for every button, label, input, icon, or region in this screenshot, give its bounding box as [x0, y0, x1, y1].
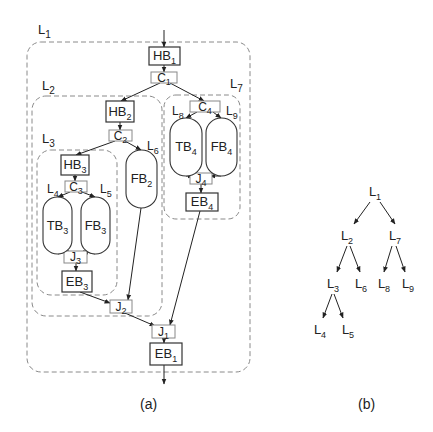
- branch-tb4: TB4L8: [170, 104, 202, 176]
- tree-edge-l3-to-l5: [334, 294, 343, 318]
- panel-a-control-flow-graph: L1L2L3L7 HB1HB2HB3EB3EB4EB1C1C2C3C4J3J4J…: [27, 22, 250, 412]
- tree-node-l2: L2: [341, 228, 353, 246]
- block-eb1: EB1: [150, 343, 182, 365]
- panel-b-loop-tree: L1L2L7L3L6L8L9L4L5 (b): [314, 184, 414, 412]
- tree-edge-l2-to-l3: [337, 246, 347, 272]
- edge-j2-to-j1: [125, 313, 155, 326]
- block-eb3: EB3: [62, 271, 92, 292]
- edge-eb3-to-j2: [80, 292, 110, 303]
- block-hb3: HB3: [61, 155, 89, 175]
- loop-tree-edges: [323, 202, 405, 318]
- block-eb4: EB4: [186, 193, 218, 212]
- loop-label-l7: L7: [230, 76, 243, 94]
- loop-label-l8: L8: [172, 104, 184, 121]
- join-j3: J3: [64, 250, 87, 266]
- tree-node-l1: L1: [369, 184, 381, 202]
- tree-node-l6: L6: [355, 276, 367, 294]
- tree-edge-l1-to-l2: [354, 202, 370, 224]
- edge-c1-to-hb2: [121, 83, 160, 101]
- branch-fb3: FB3L5: [81, 182, 112, 254]
- edge-c4-to-fb4: [213, 112, 221, 118]
- branch-fb2: FB2L6: [126, 139, 159, 208]
- edge-c1-to-c4: [170, 83, 204, 101]
- edge-c2-to-hb3: [76, 141, 115, 155]
- edge-c2-to-fb2: [125, 141, 141, 150]
- loop-nesting-diagram: L1L2L3L7 HB1HB2HB3EB3EB4EB1C1C2C3C4J3J4J…: [0, 0, 433, 432]
- join-j2: J2: [110, 300, 132, 316]
- panel-b-caption: (b): [358, 396, 375, 412]
- edge-c3-to-fb3: [82, 192, 95, 197]
- loop-tree-nodes: L1L2L7L3L6L8L9L4L5: [314, 184, 414, 340]
- loop-label-l4: L4: [47, 182, 59, 199]
- loop-label-l9: L9: [226, 104, 238, 121]
- tree-node-l4: L4: [314, 322, 326, 340]
- loop-label-l1: L1: [38, 22, 51, 40]
- tree-edge-l1-to-l7: [380, 202, 395, 224]
- tree-node-l8: L8: [378, 276, 390, 294]
- edge-eb4-to-j1: [170, 211, 200, 325]
- tree-edge-l3-to-l4: [323, 294, 332, 318]
- block-hb2: HB2: [106, 101, 134, 122]
- join-j1: J1: [152, 325, 175, 341]
- tree-node-l5: L5: [342, 322, 354, 340]
- edge-c4-to-tb4: [186, 112, 197, 118]
- loop-label-l3: L3: [42, 131, 55, 149]
- panel-a-caption: (a): [140, 396, 157, 412]
- loop-label-l5: L5: [100, 182, 112, 199]
- edge-fb2-to-j2: [128, 208, 141, 300]
- tree-node-l7: L7: [389, 228, 401, 246]
- tree-edge-l7-to-l9: [396, 246, 405, 272]
- loop-label-l2: L2: [42, 78, 55, 96]
- tree-node-l9: L9: [402, 276, 414, 294]
- tree-edge-l2-to-l6: [350, 246, 360, 272]
- block-hb1: HB1: [149, 47, 180, 66]
- tree-edge-l7-to-l8: [384, 246, 392, 272]
- tree-node-l3: L3: [327, 276, 339, 294]
